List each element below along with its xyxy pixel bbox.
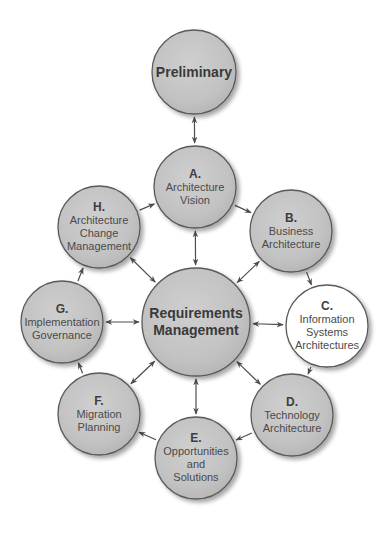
arrow-e-to-f	[139, 432, 156, 440]
arrow-a-to-b	[235, 205, 251, 212]
arrow-b-to-c	[307, 272, 312, 285]
node-g	[21, 281, 103, 363]
node-preliminary	[152, 30, 236, 114]
arrow-rm-to-h	[130, 258, 155, 282]
adm-cycle-diagram	[0, 0, 391, 545]
arrow-rm-to-f	[131, 361, 155, 383]
arrow-c-to-d	[308, 367, 311, 374]
arrow-rm-to-d	[237, 362, 260, 385]
node-d	[251, 374, 333, 456]
nodes-layer	[21, 30, 368, 499]
node-f	[58, 373, 140, 455]
arrow-g-to-h	[78, 268, 83, 281]
node-rm	[142, 268, 250, 376]
arrow-f-to-g	[78, 363, 82, 373]
node-c	[286, 285, 368, 367]
arrow-h-to-a	[140, 204, 155, 210]
node-a	[154, 146, 236, 228]
node-h	[58, 186, 140, 268]
arrow-rm-to-c	[253, 324, 283, 325]
arrow-d-to-e	[236, 433, 252, 440]
node-b	[250, 190, 332, 272]
arrow-rm-to-b	[237, 261, 259, 282]
node-e	[155, 417, 237, 499]
